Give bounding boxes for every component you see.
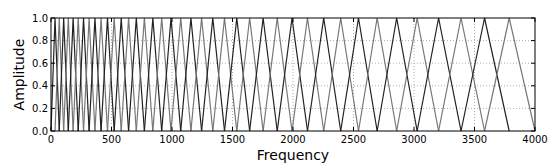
x-tick-label: 3500 xyxy=(462,134,487,145)
y-tick-label: 0.2 xyxy=(32,103,48,114)
filter-triangle xyxy=(213,18,237,131)
y-axis-label: Amplitude xyxy=(11,39,27,111)
y-tick-label: 0.6 xyxy=(32,58,48,69)
filter-triangle xyxy=(78,18,89,131)
x-axis-label: Frequency xyxy=(257,147,329,163)
filter-triangle xyxy=(237,18,263,131)
filter-triangle xyxy=(121,18,136,131)
filter-triangle xyxy=(202,18,225,131)
filter-triangle xyxy=(95,18,108,131)
filter-triangle xyxy=(461,18,509,131)
filter-triangle xyxy=(144,18,161,131)
grid-lines xyxy=(51,18,535,131)
y-tick-label: 0.0 xyxy=(32,126,48,137)
filter-triangle xyxy=(263,18,292,131)
filter-triangle xyxy=(359,18,397,131)
filter-triangle xyxy=(377,18,417,131)
filter-triangle xyxy=(162,18,181,131)
x-tick-label: 0 xyxy=(48,134,54,145)
filter-triangle xyxy=(250,18,278,131)
filter-triangle xyxy=(101,18,114,131)
x-tick-label: 500 xyxy=(102,134,121,145)
x-tick-label: 2500 xyxy=(341,134,366,145)
filter-triangle xyxy=(73,18,83,131)
filter-triangle xyxy=(341,18,377,131)
filter-triangle xyxy=(84,18,95,131)
y-axis-ticks: 0.00.20.40.60.81.0 xyxy=(32,13,535,137)
filter-triangle xyxy=(107,18,121,131)
y-tick-label: 1.0 xyxy=(32,13,48,24)
y-tick-label: 0.4 xyxy=(32,80,48,91)
x-tick-label: 1000 xyxy=(159,134,184,145)
filter-triangle xyxy=(171,18,191,131)
filter-triangle xyxy=(136,18,153,131)
filter-triangle xyxy=(225,18,250,131)
filter-triangle xyxy=(485,18,535,131)
filter-triangle xyxy=(397,18,439,131)
filter-triangle xyxy=(129,18,145,131)
filter-triangle xyxy=(153,18,171,131)
x-tick-label: 4000 xyxy=(522,134,547,145)
filter-triangle xyxy=(307,18,340,131)
y-tick-label: 0.8 xyxy=(32,35,48,46)
filter-triangle xyxy=(439,18,485,131)
filter-triangle xyxy=(191,18,213,131)
x-tick-label: 3000 xyxy=(401,134,426,145)
filter-triangle xyxy=(89,18,101,131)
filter-triangle xyxy=(181,18,202,131)
filter-triangle xyxy=(68,18,78,131)
filter-triangle xyxy=(417,18,461,131)
x-tick-label: 1500 xyxy=(220,134,245,145)
filterbank-chart: 05001000150020002500300035004000 0.00.20… xyxy=(0,0,559,168)
filter-triangle xyxy=(64,18,73,131)
x-tick-label: 2000 xyxy=(280,134,305,145)
filter-triangle xyxy=(277,18,307,131)
filter-triangle xyxy=(292,18,324,131)
filter-triangle xyxy=(114,18,128,131)
